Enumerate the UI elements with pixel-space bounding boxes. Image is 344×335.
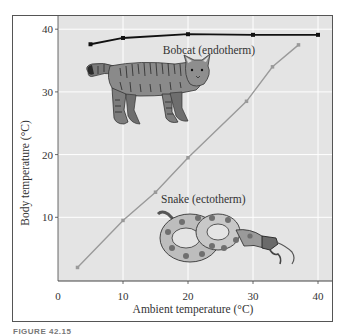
x-tick-label: 0 [55,290,61,302]
figure-caption: FIGURE 42.15 [13,327,71,335]
y-tick-label: 10 [42,211,54,223]
figure: 010203040 10203040 [0,0,344,335]
data-point-bobcat [121,36,125,40]
data-point-bobcat [89,42,93,46]
annotation-bobcat: Bobcat (endotherm) [163,44,255,57]
y-tick-label: 20 [42,149,54,161]
annotation-snake: Snake (ectotherm) [161,193,246,206]
y-tick-label: 40 [42,23,54,35]
data-point-snake [121,219,125,223]
x-tick-label: 30 [248,290,260,302]
data-point-bobcat [186,32,190,36]
x-tick-label: 10 [118,290,130,302]
data-point-snake [245,100,249,104]
data-point-bobcat [316,33,320,37]
x-tick-label: 20 [183,290,195,302]
x-tick-label: 40 [313,290,325,302]
y-tick-label: 30 [42,86,54,98]
data-point-snake [186,156,190,160]
data-point-snake [154,190,158,194]
data-point-snake [271,65,275,69]
x-axis-title: Ambient temperature (°C) [133,303,254,316]
data-point-snake [297,43,301,47]
data-point-bobcat [251,33,255,37]
data-point-snake [76,266,80,270]
y-axis-title: Body temperature (°C) [19,120,32,226]
